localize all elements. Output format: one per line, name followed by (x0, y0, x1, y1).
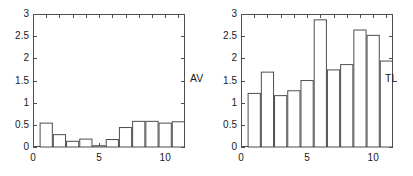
bar (119, 128, 131, 147)
panel-annotation-tl: TL (385, 73, 397, 84)
x-axis-tick-label: 0 (30, 153, 36, 163)
chart-panel-av: 00.511.522.530510 AV (0, 0, 206, 176)
x-axis-tick-label: 10 (368, 153, 379, 163)
x-axis-tick-label: 5 (96, 153, 102, 163)
bar (146, 121, 158, 147)
bar (248, 93, 260, 147)
y-axis-tick-label: 2.5 (209, 31, 237, 41)
figure-canvas: 00.511.522.530510 AV 00.511.522.530510 T… (0, 0, 413, 176)
bar (367, 35, 379, 147)
bar (275, 96, 287, 147)
bar (80, 139, 92, 147)
bar (133, 121, 145, 147)
panel-annotation-av: AV (190, 73, 203, 84)
bar (327, 70, 339, 147)
y-axis-tick-label: 2 (209, 53, 237, 63)
plot-area-av (0, 0, 206, 176)
x-axis-tick-label: 0 (238, 153, 244, 163)
bar (172, 122, 184, 147)
bar (354, 30, 366, 147)
y-axis-tick-label: 2 (1, 53, 29, 63)
y-axis-tick-label: 3 (209, 9, 237, 19)
y-axis-tick-label: 1.5 (209, 76, 237, 86)
bar (341, 65, 353, 147)
bar (288, 91, 300, 147)
x-axis-tick-label: 10 (160, 153, 171, 163)
y-axis-tick-label: 0.5 (209, 120, 237, 130)
bar (106, 140, 118, 147)
y-axis-tick-label: 2.5 (1, 31, 29, 41)
bar (261, 72, 273, 147)
bar (40, 123, 52, 147)
y-axis-tick-label: 1.5 (1, 76, 29, 86)
x-axis-tick-label: 5 (304, 153, 310, 163)
y-axis-tick-label: 1 (209, 98, 237, 108)
bar (67, 141, 79, 147)
y-axis-tick-label: 0.5 (1, 120, 29, 130)
y-axis-tick-label: 3 (1, 9, 29, 19)
y-axis-tick-label: 1 (1, 98, 29, 108)
bar (53, 135, 65, 147)
y-axis-tick-label: 0 (209, 142, 237, 152)
bar (93, 146, 105, 147)
bar (314, 20, 326, 147)
bar (159, 123, 171, 147)
bar (301, 81, 313, 147)
chart-panel-tl: 00.511.522.530510 TL (206, 0, 412, 176)
y-axis-tick-label: 0 (1, 142, 29, 152)
